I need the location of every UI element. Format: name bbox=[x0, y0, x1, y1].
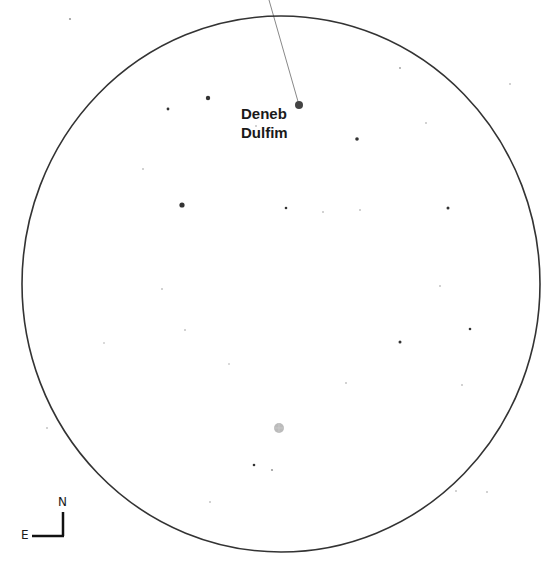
star bbox=[285, 207, 288, 210]
star bbox=[455, 490, 457, 492]
compass-north-label: N bbox=[58, 495, 67, 509]
star bbox=[209, 501, 211, 503]
star bbox=[509, 83, 511, 85]
star bbox=[184, 329, 186, 331]
star bbox=[447, 207, 450, 210]
target-label-line1: Deneb bbox=[241, 104, 288, 123]
target-label: Deneb Dulfim bbox=[241, 104, 288, 142]
finder-chart bbox=[0, 0, 553, 567]
target-star[interactable] bbox=[295, 101, 303, 109]
star bbox=[142, 168, 144, 170]
star bbox=[461, 384, 463, 386]
star bbox=[206, 96, 210, 100]
star bbox=[486, 491, 488, 493]
compass-east-label: E bbox=[21, 528, 29, 542]
center-marker-icon bbox=[274, 423, 284, 433]
star bbox=[228, 363, 229, 364]
star bbox=[399, 67, 401, 69]
star bbox=[253, 464, 256, 467]
star bbox=[425, 122, 427, 124]
star bbox=[271, 469, 273, 471]
compass-icon bbox=[32, 512, 64, 536]
star bbox=[103, 342, 104, 343]
star bbox=[355, 137, 359, 141]
star bbox=[322, 211, 324, 213]
field-of-view-circle bbox=[22, 16, 540, 552]
star bbox=[167, 108, 170, 111]
star bbox=[345, 382, 347, 384]
star bbox=[69, 18, 71, 20]
star bbox=[359, 209, 361, 211]
star bbox=[46, 427, 48, 429]
star bbox=[469, 328, 472, 331]
star bbox=[179, 202, 184, 207]
star bbox=[399, 341, 402, 344]
star bbox=[439, 285, 441, 287]
target-label-line2: Dulfim bbox=[241, 123, 288, 142]
star bbox=[161, 288, 163, 290]
